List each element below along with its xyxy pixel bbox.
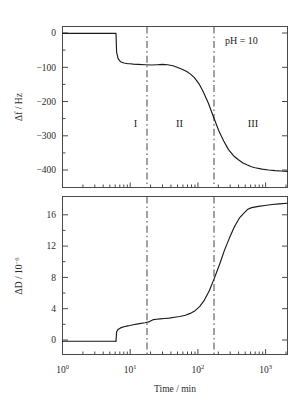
top-ytick-label-3: −300 [36,131,56,141]
x-axis-title: Time / min [154,384,196,394]
top-y-ticks-right [282,33,288,170]
bottom-panel: 0 4 8 12 16 ΔD / 10−6 [13,197,288,355]
bottom-panel-frame [63,197,288,355]
xtick-1-mantissa: 10 [124,365,134,375]
xtick-3-exponent: 3 [269,363,272,370]
bottom-y-axis-title: ΔD / 10−6 [13,257,25,295]
bottom-ytick-label-3: 12 [47,241,57,251]
top-ytick-label-0: 0 [51,28,56,38]
figure-root: 0 −100 −200 −300 −400 Δf / Hz I II III p… [0,0,304,409]
region-label-III: III [248,118,259,129]
top-y-ticks [63,33,69,170]
xtick-1-exponent: 1 [133,363,136,370]
bottom-ytick-label-4: 16 [47,210,57,220]
region-label-II: II [176,118,183,129]
top-ytick-label-4: −400 [36,165,56,175]
top-y-axis-title: Δf / Hz [14,93,24,121]
delta-d-curve [63,203,288,341]
xtick-0-exponent: 0 [66,363,69,370]
xtick-label-0: 100 [56,363,69,375]
top-panel: 0 −100 −200 −300 −400 Δf / Hz I II III p… [14,27,288,188]
xtick-2-exponent: 2 [201,363,204,370]
xtick-3-mantissa: 10 [259,365,269,375]
qcmd-two-panel-chart: 0 −100 −200 −300 −400 Δf / Hz I II III p… [0,0,304,409]
xtick-label-1: 101 [124,363,137,375]
region-label-I: I [134,118,138,129]
top-ytick-label-2: −200 [36,97,56,107]
top-panel-frame [63,27,288,188]
bottom-y-axis-title-main: ΔD / 10 [14,264,24,294]
xtick-label-2: 102 [192,363,205,375]
bottom-ytick-label-2: 8 [51,273,56,283]
bottom-x-ticks [63,349,287,355]
top-x-ticks [63,183,287,188]
bottom-ytick-label-0: 0 [51,335,56,345]
bottom-y-ticks [63,215,69,340]
bottom-y-ticks-right [282,215,288,340]
xtick-2-mantissa: 10 [192,365,202,375]
delta-f-curve [63,33,288,171]
ph-annotation: pH = 10 [225,35,258,46]
x-axis-labels: 100 101 102 103 Time / min [56,363,272,394]
xtick-label-3: 103 [259,363,272,375]
bottom-y-axis-title-exponent: −6 [13,257,20,265]
bottom-ytick-label-1: 4 [51,304,56,314]
top-ytick-label-1: −100 [36,63,56,73]
xtick-0-mantissa: 10 [56,365,66,375]
